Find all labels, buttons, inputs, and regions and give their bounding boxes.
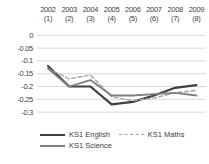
ks1-attainment-line-chart: 2002(1)2003(2)2004(3)2005(4)2006(5)2007(… [0,0,209,164]
legend-row-2: KS1 Science [40,140,194,151]
y-tick-label--0.3: -0.3 [3,108,33,117]
y-tick-label--0.25: -0.25 [3,95,33,104]
ks1-science-line-sample-icon [40,145,65,147]
y-tick-label--0.05: -0.05 [3,44,33,53]
chart-legend: KS1 English KS1 Maths KS1 Science [40,129,194,151]
y-tick-label--0.15: -0.15 [3,69,33,78]
y-tick-label--0.2: -0.2 [3,82,33,91]
x-label-year: 2009 [183,5,209,14]
legend-label-ks1-science: KS1 Science [69,141,112,150]
legend-label-ks1-maths: KS1 Maths [148,130,185,139]
y-tick-label--0.1: -0.1 [3,56,33,65]
x-label-rank: (8) [183,14,209,23]
ks1-english-line-sample-icon [40,134,65,136]
legend-label-ks1-english: KS1 English [69,130,110,139]
ks1-maths-line-sample-icon [119,134,144,135]
legend-row-1: KS1 English KS1 Maths [40,129,194,140]
x-label-2009: 2009(8) [183,5,209,23]
ks1-science-line [48,69,196,96]
y-tick-label-0: 0 [3,31,33,40]
